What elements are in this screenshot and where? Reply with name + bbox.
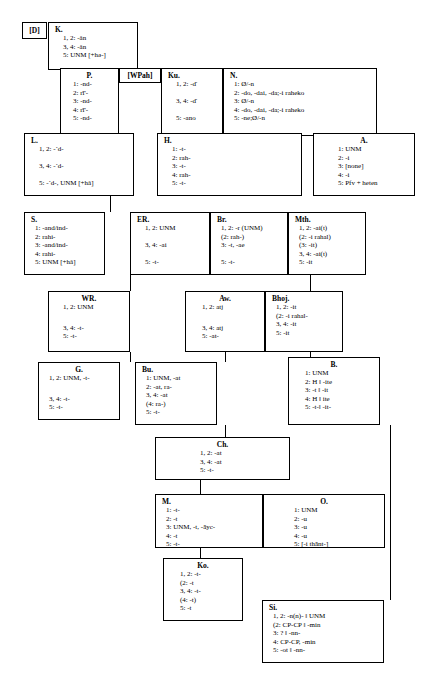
node-si-lines: 1, 2: -n(n)- ‖ UNM (2: CP-CP ‖ -min 3: ?…: [263, 612, 383, 657]
node-h-header: H.: [158, 134, 301, 145]
node-bhoj[interactable]: Bhoj. 1, 2: -it (2: -i rahal- 3, 4: -it …: [265, 291, 343, 352]
node-ku[interactable]: Ku. 1, 2: -ď 3, 4: -ď 5: -ano: [161, 68, 223, 136]
node-er-lines: 1, 2: UNM 3, 4: -ai 5: -t-: [131, 224, 209, 269]
connector-l-to-s: [110, 196, 111, 212]
node-a-header: A.: [314, 134, 414, 145]
node-g-lines: 1, 2: UNM, -t- 3, 4: -t- 5: -t-: [39, 374, 119, 414]
node-m[interactable]: M. 1: -t- 2: -t 3: UNM, -t, -āyc- 4: -t …: [155, 494, 263, 548]
connector-b-to-si: [390, 425, 391, 600]
node-si-header: Si.: [263, 601, 383, 612]
node-bhoj-header: Bhoj.: [266, 292, 342, 303]
node-wr-lines: 1, 2: UNM 3, 4: -t- 5: -t-: [49, 303, 129, 343]
node-o-header: O.: [264, 495, 384, 506]
node-n-lines: 1: Ø/-n 2: -do, -dai, -da;-i raheko 3: Ø…: [224, 80, 376, 125]
node-p-lines: 1: -nd- 2: rī'- 3: -nd- 4: rī'- 5: -nd-: [61, 80, 118, 125]
node-bu-header: Bu.: [136, 363, 216, 374]
node-br[interactable]: Br. 1, 2: -r (UNM) (2: rah-) 3: -t, -ae …: [210, 212, 288, 275]
node-aw-lines: 1, 2: atj 3, 4: atj 5: -at-: [186, 303, 264, 343]
node-ch-header: Ch.: [156, 438, 289, 449]
node-ku-header: Ku.: [162, 69, 222, 80]
node-ku-lines: 1, 2: -ď 3, 4: -ď 5: -ano: [162, 80, 222, 125]
tag-wpah: [WPah]: [119, 68, 161, 83]
node-er[interactable]: ER. 1, 2: UNM 3, 4: -ai 5: -t-: [130, 212, 210, 275]
node-n-header: N.: [224, 69, 376, 80]
node-l-header: L.: [25, 134, 133, 145]
node-l[interactable]: L. 1, 2: -ˊd- 3, 4: -ˊd- 5: -ˊd-, UNM [+…: [24, 133, 134, 196]
node-br-header: Br.: [211, 213, 287, 224]
diagram-canvas: [D] [WPah] K. 1, 2: -ǎn 3, 4: -ǎn 5: UNM…: [0, 0, 426, 683]
node-b-lines: 1: UNM 2: H ‖ -ite 3: -t ‖ -it 4: H ‖ it…: [289, 369, 379, 414]
connector-bu-to-ch: [225, 425, 226, 437]
node-ko-header: Ko.: [164, 559, 242, 570]
node-er-header: ER.: [131, 213, 209, 224]
node-p-header: P.: [61, 69, 118, 80]
node-ch[interactable]: Ch. 1, 2: -at 3, 4: -at 5: -t-: [155, 437, 290, 480]
node-k-header: K.: [49, 23, 137, 34]
node-aw-header: Aw.: [186, 292, 264, 303]
node-o[interactable]: O. 1: UNM 2: -u 3: -u 4: -u 5: [-i thānt…: [263, 494, 385, 548]
node-ch-lines: 1, 2: -at 3, 4: -at 5: -t-: [156, 449, 289, 477]
node-s-header: S.: [25, 213, 104, 224]
connector-wr-to-g: [130, 352, 131, 362]
node-mth-lines: 1, 2: -ai(t) (2: -i rahal) (3: -it) 3, 4…: [289, 224, 365, 269]
node-a[interactable]: A. 1: UNM 2: -i 3: [none] 4: -i 5: Pfv +…: [313, 133, 415, 196]
node-bhoj-lines: 1, 2: -it (2: -i rahal- 3, 4: -it 5: -it: [266, 303, 342, 339]
node-m-lines: 1: -t- 2: -t 3: UNM, -t, -āyc- 4: -t 5: …: [156, 506, 262, 551]
node-bu[interactable]: Bu. 1: UNM, -at 2: -at, ra- 3, 4: -at (4…: [135, 362, 217, 425]
connector-s-to-wr: [130, 275, 131, 291]
node-s[interactable]: S. 1: -and/ind- 2: rahi- 3: -and/ind- 4:…: [24, 212, 105, 275]
node-ko-lines: 1, 2: -t- (2: -t 3, 4: -t- (4: -t) 5: -t: [164, 570, 242, 615]
node-n[interactable]: N. 1: Ø/-n 2: -do, -dai, -da;-i raheko 3…: [223, 68, 377, 136]
node-p[interactable]: P. 1: -nd- 2: rī'- 3: -nd- 4: rī'- 5: -n…: [60, 68, 119, 136]
node-si[interactable]: Si. 1, 2: -n(n)- ‖ UNM (2: CP-CP ‖ -min …: [262, 600, 384, 663]
node-k[interactable]: K. 1, 2: -ǎn 3, 4: -ǎn 5: UNM [+hǝ-]: [48, 22, 138, 70]
node-wr-header: WR.: [49, 292, 129, 303]
node-a-lines: 1: UNM 2: -i 3: [none] 4: -i 5: Pfv + he…: [314, 145, 414, 190]
node-mth[interactable]: Mth. 1, 2: -ai(t) (2: -i rahal) (3: -it)…: [288, 212, 366, 275]
node-m-header: M.: [156, 495, 262, 506]
connector-mth-to-bhoj: [310, 275, 311, 291]
node-h-lines: 1: -t- 2: rah- 3: -t- 4: rah- 5: -t-: [158, 145, 301, 190]
node-o-lines: 1: UNM 2: -u 3: -u 4: -u 5: [-i thānt-]: [264, 506, 384, 551]
node-b[interactable]: B. 1: UNM 2: H ‖ -ite 3: -t ‖ -it 4: H ‖…: [288, 357, 380, 425]
node-aw[interactable]: Aw. 1, 2: atj 3, 4: atj 5: -at-: [185, 291, 265, 352]
node-g[interactable]: G. 1, 2: UNM, -t- 3, 4: -t- 5: -t-: [38, 362, 120, 420]
node-h[interactable]: H. 1: -t- 2: rah- 3: -t- 4: rah- 5: -t-: [157, 133, 302, 196]
node-k-lines: 1, 2: -ǎn 3, 4: -ǎn 5: UNM [+hǝ-]: [49, 34, 137, 62]
connector-ch-to-m: [200, 480, 201, 494]
tag-d: [D]: [22, 22, 47, 39]
node-mth-header: Mth.: [289, 213, 365, 224]
node-s-lines: 1: -and/ind- 2: rahi- 3: -and/ind- 4: ra…: [25, 224, 104, 269]
node-br-lines: 1, 2: -r (UNM) (2: rah-) 3: -t, -ae 5: -…: [211, 224, 287, 269]
node-g-header: G.: [39, 363, 119, 374]
node-l-lines: 1, 2: -ˊd- 3, 4: -ˊd- 5: -ˊd-, UNM [+hǎ]: [25, 145, 133, 190]
node-bu-lines: 1: UNM, -at 2: -at, ra- 3, 4: -at (4: ra…: [136, 374, 216, 419]
node-ko[interactable]: Ko. 1, 2: -t- (2: -t 3, 4: -t- (4: -t) 5…: [163, 558, 243, 621]
node-b-header: B.: [289, 358, 379, 369]
node-wr[interactable]: WR. 1, 2: UNM 3, 4: -t- 5: -t-: [48, 291, 130, 352]
connector-aw-to-bu: [225, 352, 226, 362]
